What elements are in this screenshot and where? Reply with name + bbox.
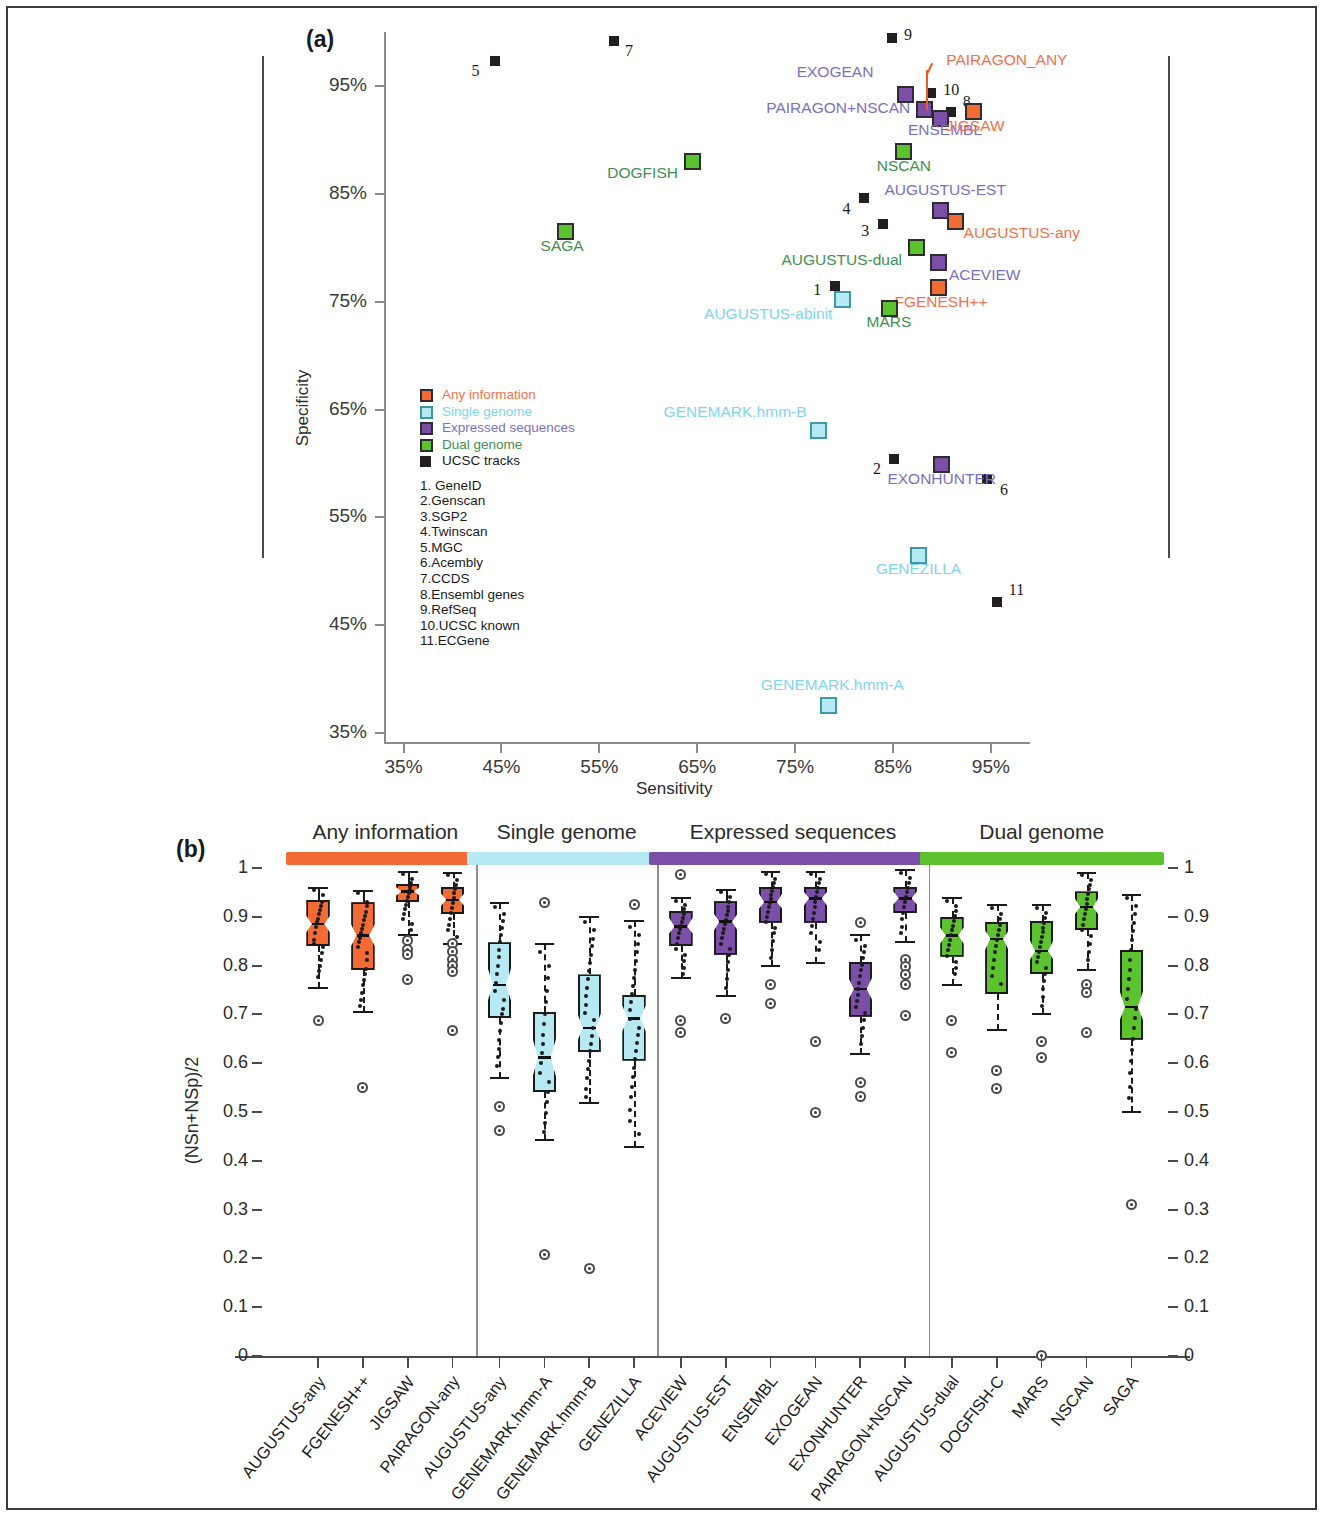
panel-a-x-tick xyxy=(990,744,992,753)
data-point xyxy=(954,966,958,970)
data-point xyxy=(359,998,363,1002)
panel-b-left-axis xyxy=(262,56,264,558)
panel-a-x-tick xyxy=(598,744,600,753)
data-point xyxy=(589,953,593,957)
legend-numbered-item: 6.Acembly xyxy=(420,555,640,571)
data-point xyxy=(630,1085,634,1089)
legend-numbered-item: 7.CCDS xyxy=(420,571,640,587)
data-point xyxy=(812,911,816,915)
legend-numbered-item: 4.Twinscan xyxy=(420,524,640,540)
data-point xyxy=(862,950,866,954)
data-point xyxy=(1126,987,1130,991)
outlier-point xyxy=(447,1025,458,1036)
data-point xyxy=(628,1017,632,1021)
data-point xyxy=(1131,1037,1135,1041)
panel-b-y-tick xyxy=(252,1062,262,1064)
whisker-cap xyxy=(716,995,736,997)
data-point xyxy=(500,926,504,930)
whisker xyxy=(815,923,817,964)
panel-a-y-title: Specificity xyxy=(293,343,313,473)
data-point xyxy=(319,958,323,962)
whisker-cap xyxy=(942,984,962,986)
panel-b-x-tick xyxy=(544,1357,546,1368)
data-point xyxy=(312,888,316,892)
data-point xyxy=(447,923,451,927)
panel-b-y-tick-label-right: 0.1 xyxy=(1184,1296,1209,1317)
data-point xyxy=(1041,995,1045,999)
scatter-point-label: JIGSAW xyxy=(946,117,1005,135)
scatter-point xyxy=(878,219,888,229)
panel-a-y-axis xyxy=(384,32,386,744)
panel-a-x-tick xyxy=(794,744,796,753)
outlier-point xyxy=(584,1263,595,1274)
whisker-cap xyxy=(987,904,1007,906)
outlier-point xyxy=(1036,1052,1047,1063)
legend-label: UCSC tracks xyxy=(442,453,520,468)
scatter-point xyxy=(820,697,837,714)
outlier-point xyxy=(629,899,640,910)
data-point xyxy=(951,924,955,928)
data-point xyxy=(764,872,768,876)
panel-b-x-tick xyxy=(996,1357,998,1368)
scatter-point xyxy=(684,153,701,170)
scatter-point-number: 10 xyxy=(943,81,959,99)
data-point xyxy=(952,919,956,923)
legend-numbered-item: 1. GeneID xyxy=(420,478,640,494)
whisker-cap xyxy=(1032,1013,1052,1015)
data-point xyxy=(318,964,322,968)
data-point xyxy=(546,976,550,980)
panel-b-tag: (b) xyxy=(176,836,205,863)
panel-b-y-tick-label-right: 0.9 xyxy=(1184,906,1209,927)
legend-entry: Single genome xyxy=(420,405,640,422)
panel-b-x-tick xyxy=(859,1357,861,1368)
data-point xyxy=(633,968,637,972)
data-point xyxy=(860,963,864,967)
data-point xyxy=(906,886,910,890)
data-point xyxy=(538,1071,542,1075)
group-divider xyxy=(657,856,659,1356)
data-point xyxy=(493,905,497,909)
outlier-point xyxy=(494,1125,505,1136)
panel-a-x-tick-label: 95% xyxy=(956,756,1026,778)
panel-a-y-tick xyxy=(375,193,384,195)
panel-b-y-tick xyxy=(1168,867,1178,869)
outlier-point xyxy=(1036,1036,1047,1047)
scatter-point-label: FGENESH++ xyxy=(894,293,987,311)
data-point xyxy=(637,933,641,937)
data-point xyxy=(811,917,815,921)
whisker-cap xyxy=(490,902,510,904)
panel-b-y-tick-label-left: 0.6 xyxy=(223,1052,248,1073)
scatter-point-label: GENEZILLA xyxy=(876,560,961,578)
data-point xyxy=(587,1059,591,1063)
data-point xyxy=(538,950,542,954)
outlier-point xyxy=(810,1036,821,1047)
panel-b-x-tick xyxy=(588,1357,590,1368)
panel-a-legend: Any informationSingle genomeExpressed se… xyxy=(420,388,640,649)
data-point xyxy=(1088,942,1092,946)
panel-b-x-tick xyxy=(1131,1357,1133,1368)
panel-b-x-tick xyxy=(725,1357,727,1368)
scatter-point xyxy=(908,239,925,256)
data-point xyxy=(817,881,821,885)
data-point xyxy=(317,969,321,973)
data-point xyxy=(861,1026,865,1030)
pairagon-any-leader-line xyxy=(926,70,928,110)
data-point xyxy=(361,983,365,987)
scatter-point xyxy=(609,36,619,46)
scatter-point-label: AUGUSTUS-EST xyxy=(884,181,1005,199)
data-point xyxy=(628,1119,632,1123)
data-point xyxy=(321,893,325,897)
panel-b-y-title: (NSn+NSp)/2 xyxy=(182,1031,203,1191)
panel-b-x-tick xyxy=(1086,1357,1088,1368)
data-point xyxy=(764,920,768,924)
outlier-point xyxy=(855,1091,866,1102)
panel-b-y-tick-label-right: 0.4 xyxy=(1184,1150,1209,1171)
panel-b-x-tick xyxy=(770,1357,772,1368)
panel-b-y-tick xyxy=(252,1111,262,1113)
outlier-point xyxy=(810,1107,821,1118)
data-point xyxy=(900,925,904,929)
whisker-cap xyxy=(1032,904,1052,906)
outlier-point xyxy=(765,979,776,990)
scatter-point-label: EXOGEAN xyxy=(797,63,874,81)
panel-b-y-tick xyxy=(252,1160,262,1162)
